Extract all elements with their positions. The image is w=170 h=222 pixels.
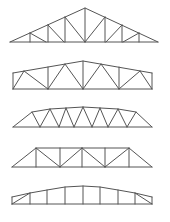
truss-web-member: [30, 33, 46, 42]
truss-web-member: [108, 109, 118, 127]
truss-web-member: [101, 64, 119, 89]
truss-web-member: [123, 33, 139, 42]
truss-web-member: [36, 148, 60, 167]
truss-web-member: [24, 71, 48, 89]
truss-web-member: [65, 64, 83, 89]
truss-web-member: [60, 148, 82, 167]
truss-web-member: [140, 71, 152, 89]
truss-web-member: [40, 109, 50, 127]
truss-web-member: [66, 108, 74, 127]
truss-web-member: [48, 64, 65, 89]
truss-web-member: [48, 25, 64, 42]
truss-web-member: [83, 64, 101, 89]
warren-bowstring-truss: [13, 107, 152, 127]
truss-web-member: [85, 17, 105, 42]
truss-web-member: [83, 107, 92, 127]
truss-web-member: [82, 148, 105, 167]
truss-web-member: [13, 71, 24, 89]
truss-web-member: [74, 107, 83, 127]
truss-web-member: [92, 108, 100, 127]
truss-web-member: [127, 112, 136, 127]
truss-web-member: [32, 112, 40, 127]
pratt-trapezoidal-truss: [12, 148, 152, 167]
truss-chord: [10, 8, 158, 42]
truss-web-member: [50, 109, 59, 127]
truss-web-member: [100, 108, 108, 127]
arched-vertical-web-truss: [12, 186, 152, 204]
truss-web-member: [118, 109, 127, 127]
truss-diagram-canvas: [0, 0, 170, 222]
truss-web-member: [59, 108, 66, 127]
truss-chord: [13, 107, 152, 127]
truss-chord: [12, 186, 152, 197]
truss-web-member: [105, 148, 129, 167]
fink-howe-pitched-truss: [10, 8, 158, 42]
truss-web-member: [106, 25, 122, 42]
pratt-parallel-chord-truss: [13, 61, 152, 89]
truss-web-member: [65, 17, 85, 42]
truss-web-member: [119, 71, 140, 89]
